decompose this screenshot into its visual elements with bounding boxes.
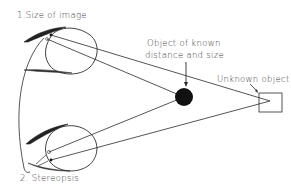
label-size-of-image: 1.Size of image [17,11,87,20]
label-known-object-line1: Object of known [147,39,221,48]
connector-curve [19,38,44,172]
bottom-eye-arrow-2 [38,161,48,166]
diagram-svg [0,0,291,186]
ray-bottom-to-unknown [51,101,270,160]
unknown-object-arrow [250,84,258,93]
depth-perception-diagram: 1.Size of image 2. Stereopsis Object of … [0,0,291,186]
label-unknown-object: Unknown object [217,75,290,84]
known-object-circle [175,88,193,106]
ray-bottom-to-known [49,97,184,152]
label-known-object-line2: distance and size [145,51,224,60]
unknown-object-square [259,93,282,112]
top-eyeball [46,28,98,74]
top-lower-eyelid [24,70,72,73]
bottom-eye [26,124,97,171]
label-stereopsis: 2. Stereopsis [20,174,79,183]
bottom-eyeball [46,126,97,171]
known-object-arrow [184,62,188,87]
top-eye [24,27,97,74]
